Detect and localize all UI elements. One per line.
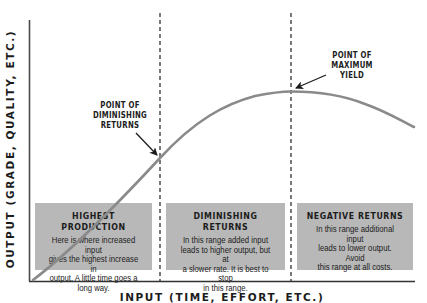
arrow-maximum-yield-icon: [296, 75, 326, 88]
annotation-line: YIELD: [327, 70, 378, 80]
annotation-line: DIMINISHING: [89, 110, 150, 120]
y-axis-label: OUTPUT (GRADE, QUALITY, ETC.): [4, 26, 18, 272]
x-axis-label: INPUT (TIME, EFFORT, ETC.): [29, 291, 415, 303]
annotation-point-of-maximum-yield: POINT OF MAXIMUM YIELD: [327, 50, 378, 80]
arrow-diminishing-point-icon: [136, 133, 157, 155]
annotation-line: POINT OF: [89, 100, 150, 110]
annotation-line: MAXIMUM: [327, 60, 378, 70]
annotation-point-of-diminishing-returns: POINT OF DIMINISHING RETURNS: [89, 100, 150, 130]
annotation-line: RETURNS: [89, 120, 150, 130]
annotation-line: POINT OF: [327, 50, 378, 60]
